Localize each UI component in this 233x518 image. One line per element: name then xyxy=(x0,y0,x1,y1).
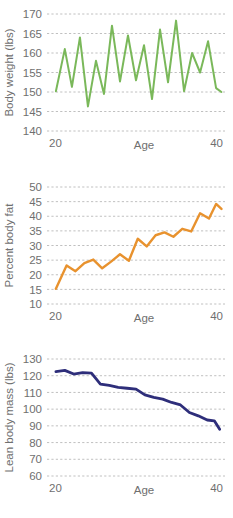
lean-body-mass-line-chart: 607080901001101201302040AgeLean body mas… xyxy=(0,345,233,518)
x-tick-label: 20 xyxy=(49,137,62,149)
y-tick-label: 120 xyxy=(23,370,42,382)
y-tick-label: 50 xyxy=(29,181,42,193)
y-tick-label: 45 xyxy=(29,195,42,207)
y-tick-label: 15 xyxy=(29,283,42,295)
y-tick-label: 110 xyxy=(24,387,42,399)
percent-body-fat-line-chart: 1015202530354045502040AgePercent body fa… xyxy=(0,173,233,346)
y-tick-label: 20 xyxy=(29,269,42,281)
x-tick-label: 40 xyxy=(210,137,223,149)
x-axis-label: Age xyxy=(134,312,154,324)
y-tick-label: 40 xyxy=(29,210,42,222)
chart-panel-percent-body-fat: 1015202530354045502040AgePercent body fa… xyxy=(0,173,233,346)
y-tick-label: 145 xyxy=(23,106,42,118)
y-tick-label: 150 xyxy=(23,86,42,98)
y-tick-label: 90 xyxy=(29,420,42,432)
chart-panel-lean-body-mass: 607080901001101201302040AgeLean body mas… xyxy=(0,345,233,518)
y-tick-label: 60 xyxy=(29,471,42,483)
y-tick-label: 80 xyxy=(29,437,42,449)
y-tick-label: 10 xyxy=(29,298,42,310)
x-axis-label: Age xyxy=(134,139,154,151)
body-weight-line-chart: 1401451501551601651702040AgeBody weight … xyxy=(0,0,233,173)
y-tick-label: 130 xyxy=(23,354,42,366)
y-tick-label: 35 xyxy=(29,225,42,237)
y-tick-label: 160 xyxy=(23,47,42,59)
x-tick-label: 40 xyxy=(210,310,223,322)
data-series-line xyxy=(56,371,220,430)
y-tick-label: 100 xyxy=(23,404,42,416)
y-axis-label: Body weight (lbs) xyxy=(3,28,15,116)
figure-container: 1401451501551601651702040AgeBody weight … xyxy=(0,0,233,518)
y-tick-label: 140 xyxy=(23,125,42,137)
y-axis-label: Percent body fat xyxy=(3,202,15,287)
y-tick-label: 30 xyxy=(29,239,42,251)
x-tick-label: 20 xyxy=(49,310,62,322)
x-axis-label: Age xyxy=(134,484,154,496)
y-tick-label: 70 xyxy=(29,454,42,466)
x-tick-label: 40 xyxy=(210,482,223,494)
y-tick-label: 155 xyxy=(23,67,42,79)
x-tick-label: 20 xyxy=(49,482,62,494)
y-axis-label: Lean body mass (lbs) xyxy=(3,363,15,473)
y-tick-label: 165 xyxy=(23,28,42,40)
chart-panel-body-weight: 1401451501551601651702040AgeBody weight … xyxy=(0,0,233,173)
y-tick-label: 25 xyxy=(29,254,42,266)
y-tick-label: 170 xyxy=(23,8,42,20)
